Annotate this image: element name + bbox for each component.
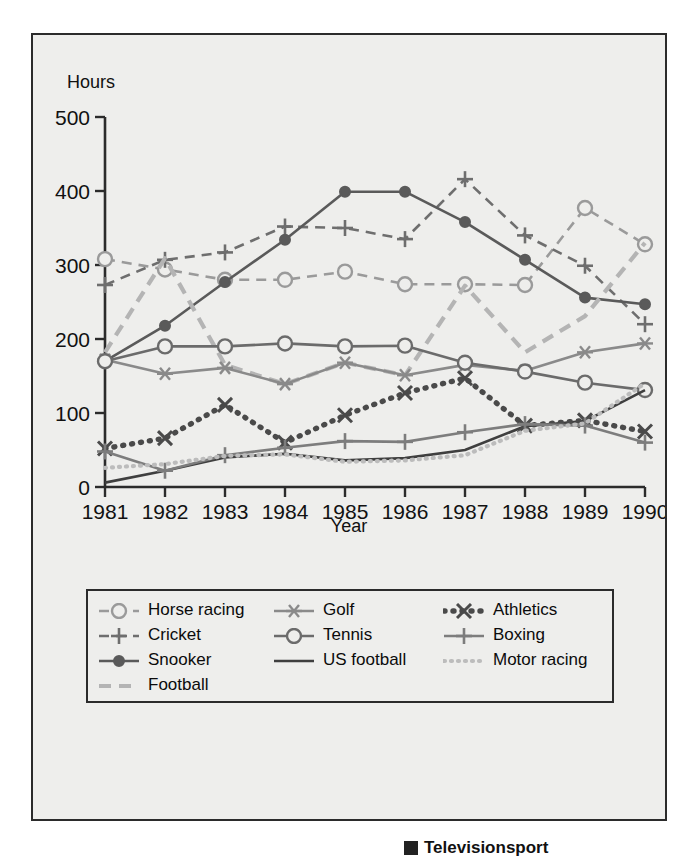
series-athletics <box>98 371 652 455</box>
legend-label: Tennis <box>323 625 372 645</box>
data-point-marker <box>456 628 472 644</box>
data-point-marker <box>277 219 293 235</box>
data-point-marker <box>338 339 352 353</box>
legend-swatch-motor_racing <box>443 653 485 667</box>
series-line <box>105 192 645 362</box>
data-point-marker <box>400 187 410 197</box>
legend-item-cricket[interactable]: Cricket <box>98 622 244 647</box>
data-point-marker <box>158 339 172 353</box>
legend-item-motor_racing[interactable]: Motor racing <box>443 647 587 672</box>
data-point-marker <box>337 220 353 236</box>
data-point-marker <box>457 424 473 440</box>
data-point-marker <box>278 273 292 287</box>
legend-column-1: Horse racingCricketSnookerFootball <box>98 597 244 697</box>
data-point-marker <box>578 201 592 215</box>
series-cricket <box>97 171 653 332</box>
x-tick-label: 1981 <box>82 500 129 523</box>
x-tick-label: 1987 <box>442 500 489 523</box>
x-axis-title: Year <box>331 516 367 535</box>
legend-item-tennis[interactable]: Tennis <box>273 622 406 647</box>
series-tennis <box>98 336 652 397</box>
legend-swatch-football <box>98 678 140 692</box>
x-tick-label: 1983 <box>202 500 249 523</box>
data-point-marker <box>398 277 412 291</box>
legend-swatch-cricket <box>98 628 140 642</box>
legend-item-us_football[interactable]: US football <box>273 647 406 672</box>
data-point-marker <box>637 316 653 332</box>
series-line <box>105 343 645 390</box>
series-football <box>105 243 645 384</box>
legend-swatch-tennis <box>273 628 315 642</box>
legend-label: Cricket <box>148 625 201 645</box>
legend-column-2: GolfTennisUS football <box>273 597 406 672</box>
y-tick-label: 0 <box>78 476 90 499</box>
data-point-marker <box>460 217 470 227</box>
series-line <box>105 179 645 324</box>
legend-swatch-horse_racing <box>98 603 140 617</box>
data-point-marker <box>397 434 413 450</box>
legend-label: Horse racing <box>148 600 244 620</box>
legend-item-snooker[interactable]: Snooker <box>98 647 244 672</box>
legend-item-boxing[interactable]: Boxing <box>443 622 587 647</box>
data-point-marker <box>520 255 530 265</box>
y-tick-label: 300 <box>55 254 90 277</box>
data-point-marker <box>217 362 233 374</box>
data-point-marker <box>217 244 233 260</box>
data-point-marker <box>518 278 532 292</box>
legend-grid: Horse racingCricketSnookerFootball GolfT… <box>88 591 612 701</box>
figure-panel: Hours 0100200300400500 19811982198319841… <box>31 33 667 821</box>
legend-label: Snooker <box>148 650 211 670</box>
data-point-marker <box>97 443 113 459</box>
x-tick-label: 1982 <box>142 500 189 523</box>
x-tick-label: 1990 <box>622 500 665 523</box>
data-point-marker <box>278 336 292 350</box>
x-tick-label: 1984 <box>262 500 309 523</box>
legend-column-3: AthleticsBoxingMotor racing <box>443 597 587 672</box>
series-horse_racing <box>98 201 652 292</box>
y-tick-label: 200 <box>55 328 90 351</box>
data-point-marker <box>338 265 352 279</box>
series-line <box>105 208 645 285</box>
data-point-marker <box>112 604 126 618</box>
legend-swatch-golf <box>273 603 315 617</box>
x-tick-label: 1986 <box>382 500 429 523</box>
data-point-marker <box>578 376 592 390</box>
data-point-marker <box>457 171 473 187</box>
y-tick-label: 400 <box>55 180 90 203</box>
series-layer <box>97 171 653 482</box>
data-point-marker <box>111 628 127 644</box>
line-chart: Hours 0100200300400500 19811982198319841… <box>33 35 665 535</box>
legend-item-football[interactable]: Football <box>98 672 244 697</box>
data-point-marker <box>157 368 173 380</box>
data-point-marker <box>287 629 301 643</box>
data-point-marker <box>518 365 532 379</box>
data-point-marker <box>577 258 593 274</box>
legend-swatch-boxing <box>443 628 485 642</box>
data-point-marker <box>458 356 472 370</box>
data-point-marker <box>97 277 113 293</box>
data-point-marker <box>517 227 533 243</box>
y-tick-label: 100 <box>55 402 90 425</box>
data-point-marker <box>286 605 302 617</box>
data-point-marker <box>577 346 593 358</box>
legend-label: Boxing <box>493 625 545 645</box>
data-point-marker <box>397 231 413 247</box>
legend-swatch-athletics <box>443 603 485 617</box>
legend-item-athletics[interactable]: Athletics <box>443 597 587 622</box>
data-point-marker <box>220 277 230 287</box>
data-point-marker <box>280 235 290 245</box>
data-point-marker <box>397 369 413 381</box>
series-line <box>105 424 645 471</box>
data-point-marker <box>98 252 112 266</box>
legend-label: Motor racing <box>493 650 587 670</box>
legend-item-horse_racing[interactable]: Horse racing <box>98 597 244 622</box>
legend-item-golf[interactable]: Golf <box>273 597 406 622</box>
square-bullet-icon <box>404 841 418 855</box>
data-point-marker <box>337 433 353 449</box>
series-line <box>105 243 645 384</box>
legend-label: Golf <box>323 600 354 620</box>
data-point-marker <box>637 337 653 349</box>
chart-svg: Hours 0100200300400500 19811982198319841… <box>33 35 665 535</box>
data-point-marker <box>640 299 650 309</box>
legend-label: Football <box>148 675 208 695</box>
